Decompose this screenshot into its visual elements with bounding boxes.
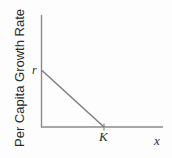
figure-container: Per Capita Growth Rate r K x [0,0,172,158]
plot-area [0,0,172,158]
growth-rate-line [42,71,104,128]
x-axis-title: x [154,133,160,149]
x-intercept-label-K: K [99,129,108,145]
y-intercept-label-r: r [32,63,37,78]
